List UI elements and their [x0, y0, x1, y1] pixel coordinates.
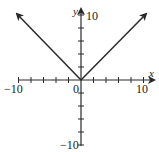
x-axis-label: x: [148, 67, 154, 79]
left-branch-line: [17, 14, 81, 80]
origin-label: 0: [73, 82, 79, 96]
x-max-label: 10: [136, 82, 148, 96]
x-min-label: −10: [4, 82, 23, 96]
y-axis-label: y: [72, 5, 78, 17]
y-min-label: −10: [60, 138, 79, 152]
y-max-label: 10: [86, 9, 98, 23]
right-branch-line: [81, 14, 146, 80]
absolute-value-graph: y 10 x −10 0 10 −10: [0, 0, 159, 152]
